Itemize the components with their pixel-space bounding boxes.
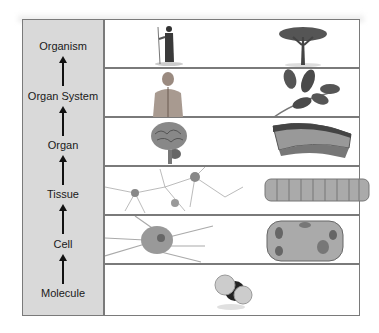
images-column (105, 20, 359, 315)
neuron-icon (105, 216, 215, 264)
leaf-cross-section-icon (271, 120, 355, 164)
level-label-organism: Organism (23, 40, 103, 52)
nerve-tissue-icon (105, 167, 245, 215)
level-label-organ: Organ (23, 139, 103, 151)
acacia-tree-icon (275, 23, 331, 67)
row-organ-system (105, 69, 359, 118)
human-nervous-system-icon (147, 71, 189, 117)
plant-epidermal-tissue-icon (263, 175, 373, 205)
row-cell (105, 216, 359, 265)
organization-diagram: Organism Organ System Organ Tissue Cell … (22, 19, 360, 316)
brain-icon (149, 120, 189, 166)
levels-column: Organism Organ System Organ Tissue Cell … (23, 20, 105, 315)
level-label-cell: Cell (23, 238, 103, 250)
up-arrow-icon (62, 62, 64, 86)
level-label-molecule: Molecule (23, 287, 103, 299)
up-arrow-icon (62, 210, 64, 234)
row-organ (105, 118, 359, 167)
row-molecule (105, 265, 359, 314)
up-arrow-icon (62, 161, 64, 185)
up-arrow-icon (62, 260, 64, 284)
row-organism (105, 20, 359, 69)
human-figure-icon (153, 24, 183, 66)
up-arrow-icon (62, 112, 64, 136)
row-tissue (105, 167, 359, 216)
water-molecule-icon (213, 271, 253, 311)
plant-cell-icon (265, 219, 345, 263)
level-label-organ-system: Organ System (23, 90, 103, 102)
plant-shoot-leaves-icon (270, 69, 342, 117)
level-label-tissue: Tissue (23, 188, 103, 200)
